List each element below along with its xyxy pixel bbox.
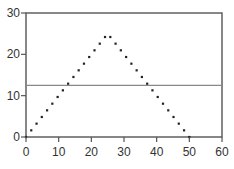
data-point: [99, 43, 101, 45]
data-point: [104, 36, 106, 38]
data-point: [67, 83, 69, 85]
data-point: [136, 69, 138, 71]
data-point: [178, 123, 180, 125]
data-point: [57, 96, 59, 98]
x-tick-label: 40: [150, 145, 164, 159]
data-point: [35, 123, 37, 125]
data-point: [130, 63, 132, 65]
data-point: [141, 76, 143, 78]
x-tick-label: 10: [52, 145, 66, 159]
data-point: [83, 63, 85, 65]
data-point: [62, 89, 64, 91]
x-tick-label: 50: [183, 145, 197, 159]
data-point: [120, 49, 122, 51]
data-point: [151, 89, 153, 91]
x-tick-label: 30: [117, 145, 131, 159]
data-point: [93, 49, 95, 51]
data-point: [146, 83, 148, 85]
plot-frame: [26, 13, 222, 137]
x-tick-label: 60: [215, 145, 229, 159]
data-point: [30, 129, 32, 131]
y-tick-label: 30: [7, 6, 21, 20]
y-tick-label: 10: [7, 89, 21, 103]
data-point: [41, 116, 43, 118]
x-axis-ticks: 0102030405060: [23, 137, 229, 159]
y-axis-ticks: 0102030: [7, 6, 26, 144]
y-tick-label: 20: [7, 47, 21, 61]
data-point: [72, 76, 74, 78]
data-point: [51, 103, 53, 105]
data-point: [78, 69, 80, 71]
data-point: [162, 103, 164, 105]
x-tick-label: 0: [23, 145, 30, 159]
triangle-scatter-chart: 0102030405060 0102030: [0, 0, 234, 169]
data-point: [167, 109, 169, 111]
data-point: [109, 36, 111, 38]
data-point: [157, 96, 159, 98]
data-point: [183, 129, 185, 131]
y-tick-label: 0: [13, 130, 20, 144]
data-points: [25, 36, 191, 138]
x-tick-label: 20: [85, 145, 99, 159]
plot-border: [26, 13, 222, 137]
data-point: [114, 43, 116, 45]
data-point: [125, 56, 127, 58]
data-point: [88, 56, 90, 58]
data-point: [46, 109, 48, 111]
data-point: [172, 116, 174, 118]
